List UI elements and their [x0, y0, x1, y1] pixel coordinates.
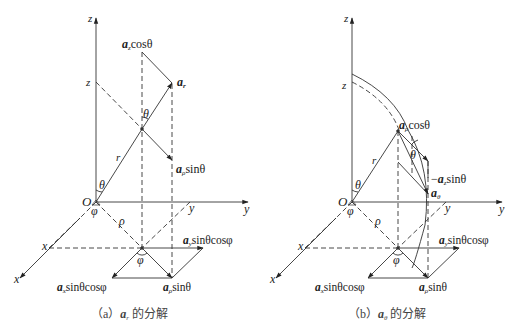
arho-vector-a — [142, 248, 172, 278]
theta-mid-label-b: θ — [410, 148, 416, 162]
neg-az-sin-label-b: −azsinθ — [431, 172, 467, 187]
ay-label-b: aysinθcosφ — [439, 234, 489, 248]
meridian-arc-dashed-b — [352, 82, 399, 130]
inner-parallel-b — [398, 162, 428, 194]
panel-a-labels: z z O y y x x r ρ θ θ φ φ azcosθ ar aρsi… — [13, 12, 250, 322]
atheta-vector — [398, 131, 428, 194]
x-axis-label-b: x — [269, 272, 276, 286]
atheta-label: aθ — [431, 186, 441, 201]
para-right-a — [172, 248, 203, 278]
y-mark-label-b: y — [444, 201, 451, 215]
caption-b: （b）aθ 的分解 — [348, 306, 426, 322]
x-axis-label-a: x — [13, 272, 20, 286]
x-mark-label-b: x — [297, 239, 304, 253]
phi-ground-label-b: φ — [393, 253, 400, 267]
z-mark-label-b: z — [341, 79, 347, 91]
ax-label-b: axsinθcosφ — [315, 281, 365, 295]
ar-vector — [142, 83, 172, 129]
az-cos-label-a: azcosθ — [122, 37, 153, 52]
z-to-p-a — [96, 82, 142, 129]
z-axis-label-a: z — [87, 12, 93, 24]
theta-origin-label-a: θ — [99, 178, 105, 192]
x-mark-label-a: x — [41, 239, 48, 253]
y-axis-label-b: y — [498, 202, 505, 216]
phi-origin-label-b: φ — [347, 204, 354, 218]
y-mark-label-a: y — [188, 201, 195, 215]
z-axis-label-b: z — [343, 12, 349, 24]
theta-top-label-a: θ — [143, 107, 149, 121]
rho-label-a: ρ — [118, 214, 125, 228]
panel-b-labels: z z O y y x x r ρ θ θ φ φ aρcosθ −azsinθ… — [269, 12, 505, 322]
theta-origin-label-b: θ — [355, 178, 361, 192]
arho-sin-upper-label-a: aρsinθ — [176, 162, 205, 177]
phi-origin-label-a: φ — [91, 204, 98, 218]
arho-sin-lower-label-a: aρsinθ — [163, 281, 192, 295]
arho-vector-b — [398, 248, 428, 278]
rho-label-b: ρ — [374, 214, 381, 228]
r-label-b: r — [372, 154, 377, 166]
r-label-a: r — [116, 151, 121, 163]
y-axis-label-a: y — [243, 202, 250, 216]
para-right-b — [428, 248, 459, 278]
z-mark-label-a: z — [85, 76, 91, 88]
caption-a: （a）ar 的分解 — [91, 306, 168, 322]
arho-cos-label-b: aρcosθ — [399, 118, 430, 133]
ay-label-a: aysinθcosφ — [183, 234, 233, 248]
ax-label-a: axsinθcosφ — [57, 281, 107, 295]
phi-ground-label-a: φ — [137, 253, 144, 267]
figure-canvas: z z O y y x x r ρ θ θ φ φ azcosθ ar aρsi… — [0, 0, 517, 334]
arho-sin-vector-a — [142, 129, 172, 160]
ar-label: ar — [177, 75, 186, 90]
arho-sin-label-b: aρsinθ — [419, 281, 448, 295]
az-cos-line — [142, 52, 172, 83]
